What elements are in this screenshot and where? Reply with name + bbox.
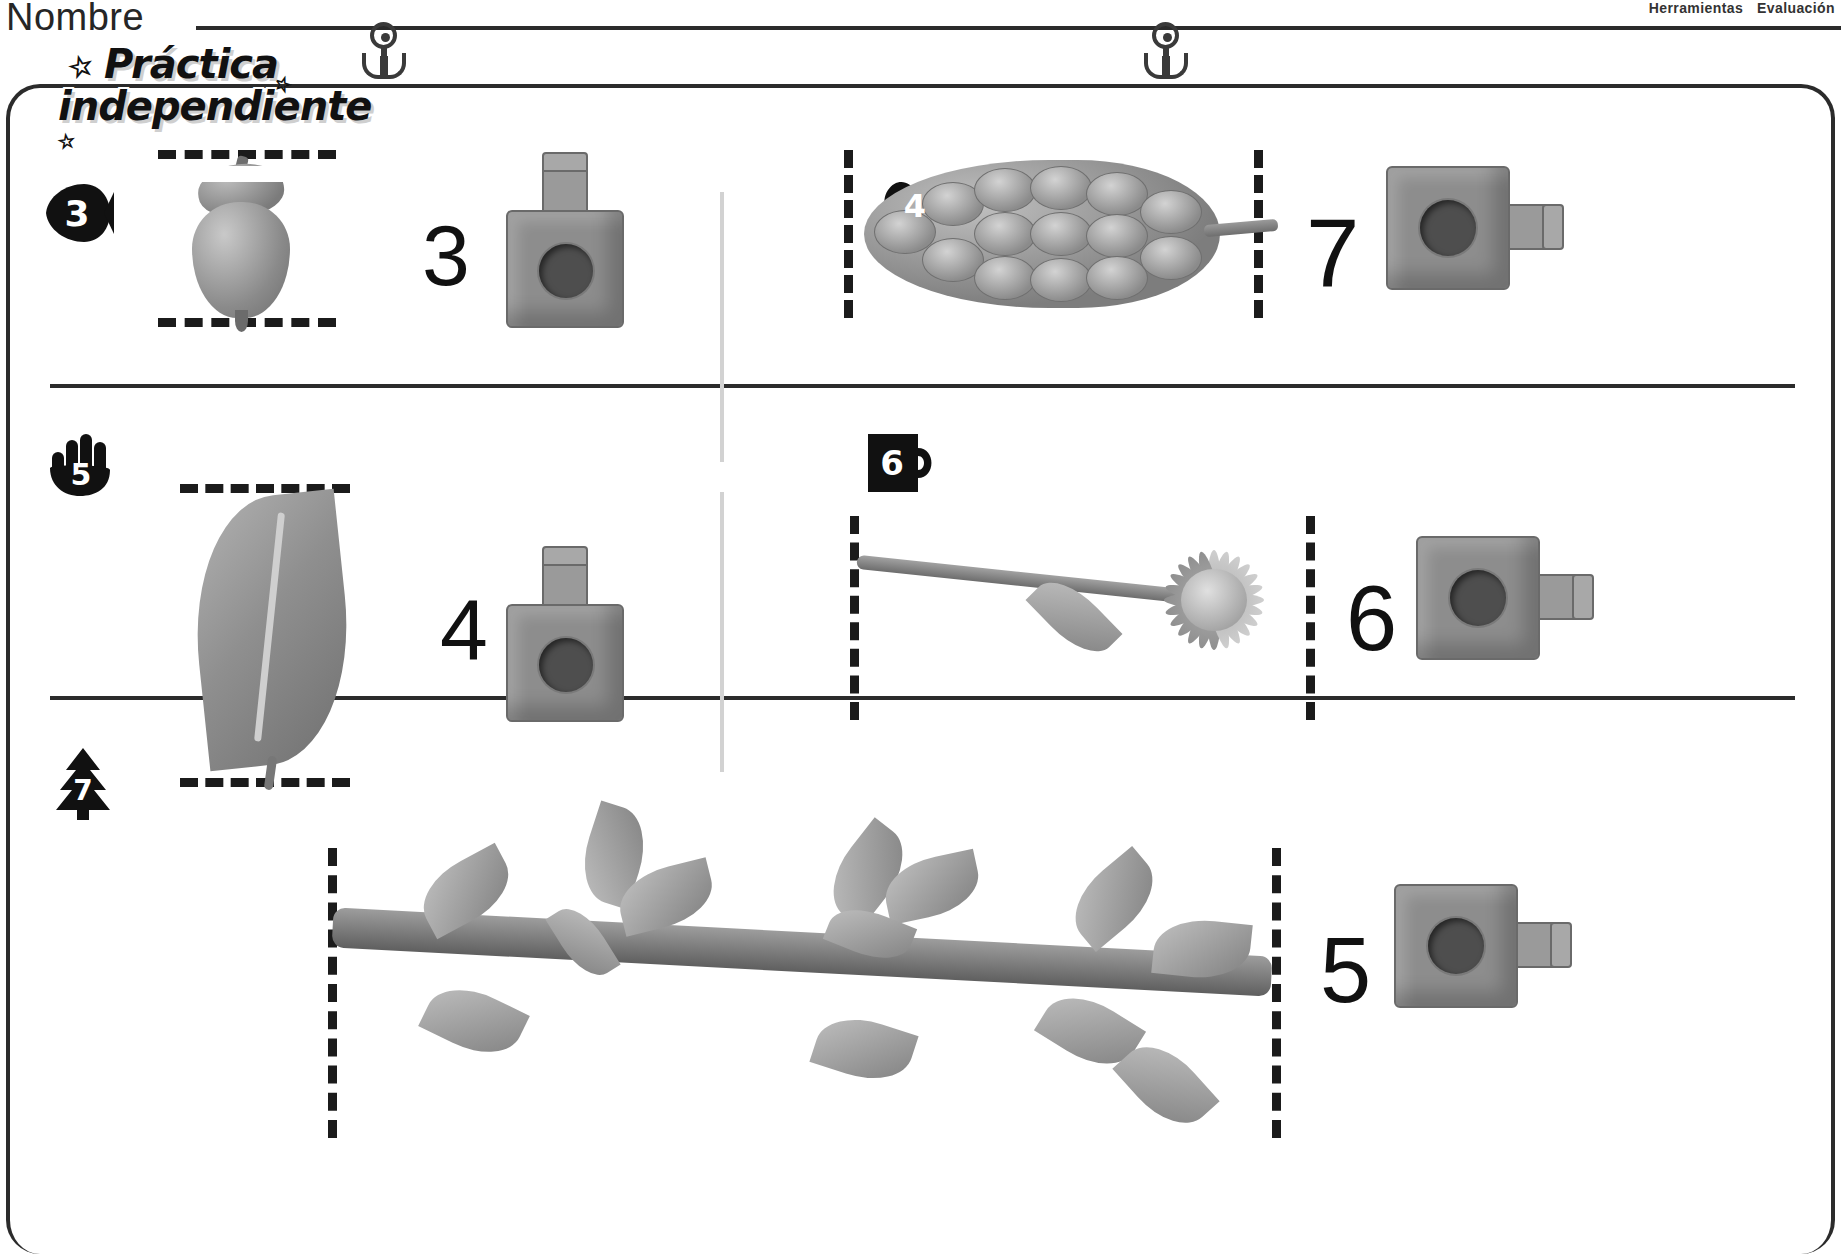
badge-number: 3	[40, 176, 114, 250]
page-header: Nombre Herramientas Evaluación	[0, 0, 1841, 34]
dash-guide-right	[1306, 516, 1315, 720]
problem-7: 7 5	[10, 700, 1836, 1250]
hand-badge: 5	[44, 424, 118, 498]
dash-guide-right	[1254, 150, 1263, 318]
problem-5: 5 4	[10, 388, 710, 688]
heart-badge: 4	[878, 172, 952, 246]
dash-guide-left	[844, 150, 853, 318]
unit-cube-vertical	[506, 152, 634, 328]
mug-badge: 6	[864, 426, 938, 500]
star-icon: ☆	[64, 47, 96, 85]
meta-assessment: Evaluación	[1757, 0, 1835, 16]
leafy-branch-image	[328, 810, 1278, 1180]
banner-line-1: Práctica	[104, 44, 278, 84]
badge-number: 4	[878, 172, 952, 246]
column-divider	[720, 192, 724, 462]
banner-line-2: independiente	[58, 86, 371, 126]
answer-value: 5	[1320, 918, 1371, 1023]
flower-image	[856, 528, 1306, 728]
banner-notch	[50, 166, 380, 182]
fish-badge: 3	[40, 176, 114, 250]
unit-cube-horizontal	[1416, 536, 1596, 676]
answer-value: 3	[422, 206, 470, 305]
unit-cube-horizontal	[1394, 884, 1574, 1024]
section-banner: ☆ ☆ ☆ Práctica independiente	[52, 38, 382, 150]
worksheet-card: 3 3 4	[6, 84, 1835, 1254]
hanging-clip-icon	[1140, 22, 1192, 80]
answer-value: 4	[440, 580, 488, 679]
answer-value: 7	[1306, 198, 1359, 308]
acorn-image	[180, 162, 302, 312]
problem-4: 4 7	[726, 88, 1836, 378]
badge-number: 6	[864, 426, 938, 500]
badge-number: 7	[46, 746, 120, 820]
answer-value: 6	[1346, 566, 1397, 671]
star-icon: ☆	[56, 129, 76, 154]
meta-tools: Herramientas	[1649, 0, 1743, 16]
badge-number: 5	[44, 424, 118, 498]
name-write-line	[196, 26, 1841, 30]
problem-6: 6 6	[726, 388, 1836, 688]
name-label: Nombre	[6, 0, 144, 39]
unit-cube-horizontal	[1386, 166, 1566, 306]
header-meta: Herramientas Evaluación	[1649, 0, 1835, 16]
unit-cube-vertical	[506, 546, 634, 722]
tree-badge: 7	[46, 746, 120, 820]
